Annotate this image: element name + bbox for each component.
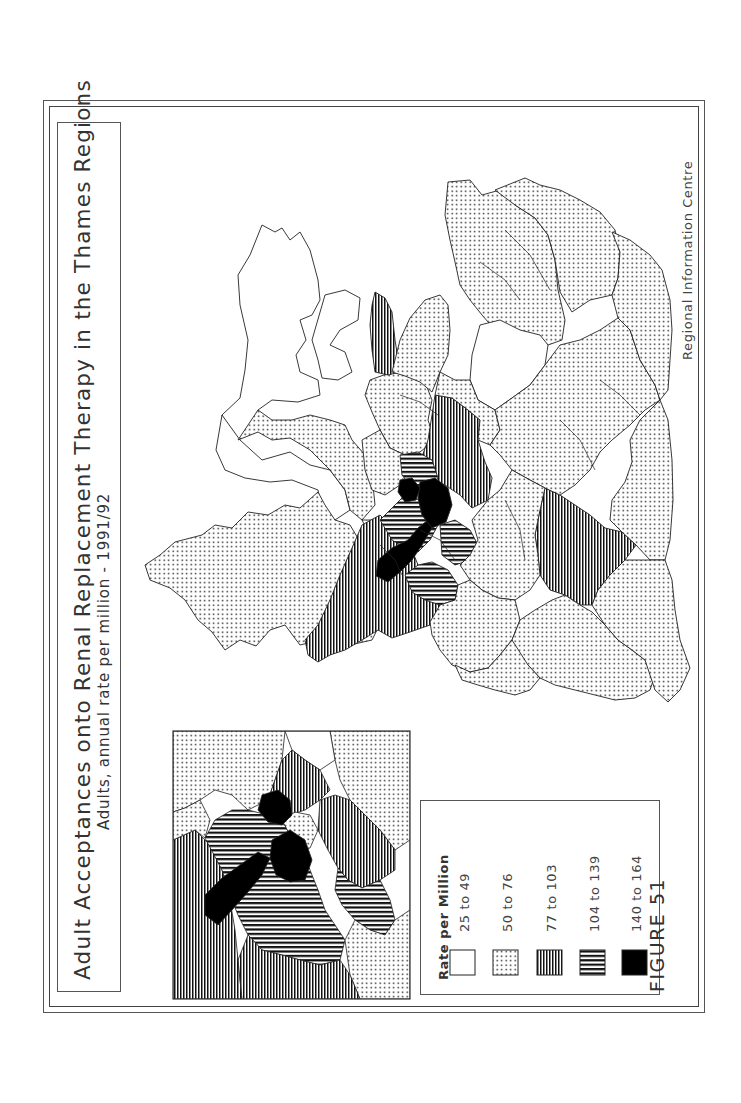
- figure-label: FIGURE 51: [646, 878, 668, 992]
- inset-map: [173, 731, 410, 999]
- legend-title: Rate per Million: [436, 854, 451, 980]
- source-credit: Regional Information Centre: [680, 161, 695, 360]
- legend-label-104-139: 104 to 139: [587, 855, 602, 932]
- legend-label-50-76: 50 to 76: [500, 873, 515, 932]
- region-25-49-north: [222, 225, 320, 440]
- legend-box: [420, 800, 660, 995]
- legend-label-25-49: 25 to 49: [457, 873, 472, 932]
- legend-label-77-103: 77 to 103: [544, 864, 559, 932]
- legend-label-140-164: 140 to 164: [629, 855, 644, 932]
- main-map: [145, 178, 690, 702]
- region-25-49-east: [312, 290, 360, 380]
